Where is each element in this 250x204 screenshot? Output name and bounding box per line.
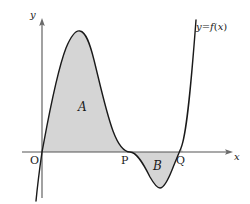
- curve-equation-label: y=f(x): [196, 22, 227, 32]
- point-q-label: Q: [176, 155, 185, 166]
- curve-equation-paren-close: ): [223, 21, 227, 32]
- shaded-region-a: [42, 31, 130, 152]
- origin-label: O: [30, 155, 39, 166]
- y-axis-label: y: [30, 10, 36, 20]
- point-p-label: P: [121, 155, 128, 166]
- region-a-label: A: [78, 101, 87, 113]
- curve-equation-equals: =: [202, 21, 210, 32]
- x-axis-label: x: [234, 152, 240, 162]
- region-b-label: B: [153, 160, 162, 172]
- graph-figure: y x O P Q A B y=f(x): [0, 0, 250, 204]
